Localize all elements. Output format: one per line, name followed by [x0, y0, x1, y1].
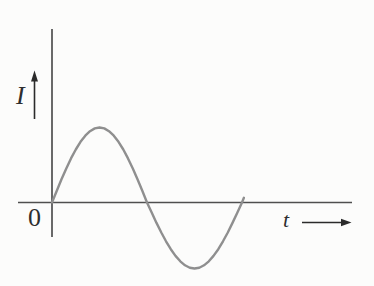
x-axis-label: t: [283, 209, 289, 231]
x-direction-arrow-icon: [302, 219, 352, 227]
sine-curve: [52, 128, 244, 269]
y-axis-label: I: [16, 83, 25, 109]
figure-canvas: I 0 t: [0, 0, 374, 286]
plot-svg: [0, 0, 374, 286]
y-direction-arrow-icon: [31, 71, 38, 120]
origin-label: 0: [28, 205, 41, 231]
